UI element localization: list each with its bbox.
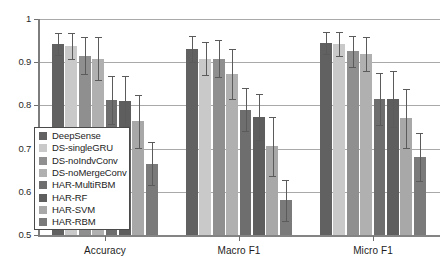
- error-bar: [339, 32, 340, 55]
- legend-swatch: [39, 218, 47, 226]
- legend-item: DS-noIndvConv: [39, 155, 118, 167]
- legend-swatch: [39, 169, 47, 177]
- error-bar-cap: [81, 37, 88, 38]
- error-bar-cap: [148, 185, 155, 186]
- legend-swatch: [39, 181, 47, 189]
- y-tick-label: 0.6: [2, 187, 31, 197]
- error-bar: [366, 37, 367, 72]
- error-bar: [112, 76, 113, 124]
- error-bar-cap: [256, 94, 263, 95]
- error-bar-cap: [416, 133, 423, 134]
- legend-label: DS-noMergeConv: [52, 168, 127, 178]
- error-bar: [246, 88, 247, 131]
- gridline: [38, 19, 440, 20]
- error-bar: [393, 71, 394, 127]
- error-bar-cap: [229, 49, 236, 50]
- error-bar: [98, 37, 99, 80]
- error-bar-cap: [135, 148, 142, 149]
- x-group-label: Macro F1: [189, 245, 289, 256]
- legend-label: DS-singleGRU: [52, 143, 113, 153]
- error-bar-cap: [55, 33, 62, 34]
- bar: [213, 59, 225, 235]
- error-bar-cap: [336, 32, 343, 33]
- y-tick-mark: [34, 62, 38, 63]
- legend-label: HAR-RF: [52, 193, 87, 203]
- bar: [333, 44, 345, 235]
- error-bar: [353, 36, 354, 67]
- error-bar-cap: [403, 89, 410, 90]
- error-bar-cap: [376, 73, 383, 74]
- error-bar-cap: [282, 221, 289, 222]
- y-tick-label: 0.8: [2, 100, 31, 110]
- error-bar-cap: [95, 80, 102, 81]
- error-bar-cap: [349, 67, 356, 68]
- bar: [320, 43, 332, 235]
- error-bar-cap: [376, 125, 383, 126]
- error-bar-cap: [269, 176, 276, 177]
- bar: [347, 51, 359, 235]
- legend-swatch: [39, 194, 47, 202]
- error-bar-cap: [336, 56, 343, 57]
- error-bar-cap: [256, 140, 263, 141]
- error-bar-cap: [323, 54, 330, 55]
- error-bar: [420, 133, 421, 181]
- error-bar: [58, 33, 59, 55]
- error-bar-cap: [242, 131, 249, 132]
- legend-label: DS-noIndvConv: [52, 156, 118, 166]
- bar: [360, 54, 372, 235]
- error-bar-cap: [189, 62, 196, 63]
- x-group-label: Micro F1: [323, 245, 423, 256]
- y-tick-mark: [34, 105, 38, 106]
- legend-item: HAR-SVM: [39, 204, 95, 216]
- error-bar: [152, 142, 153, 185]
- error-bar-cap: [215, 40, 222, 41]
- error-bar: [380, 73, 381, 125]
- legend-item: HAR-RBM: [39, 216, 96, 228]
- error-bar-cap: [189, 36, 196, 37]
- error-bar-cap: [68, 33, 75, 34]
- bar: [199, 59, 211, 235]
- error-bar: [406, 89, 407, 148]
- error-bar: [125, 76, 126, 126]
- error-bar-cap: [363, 37, 370, 38]
- error-bar: [85, 37, 86, 74]
- error-bar-cap: [403, 148, 410, 149]
- legend-item: DeepSense: [39, 130, 101, 142]
- error-bar-cap: [229, 99, 236, 100]
- error-bar-cap: [202, 42, 209, 43]
- x-tick-mark: [105, 236, 106, 241]
- error-bar: [206, 42, 207, 75]
- legend-label: HAR-RBM: [52, 217, 96, 227]
- x-tick-mark: [373, 236, 374, 241]
- error-bar: [286, 180, 287, 221]
- error-bar: [273, 117, 274, 176]
- y-tick-label: 0.7: [2, 144, 31, 154]
- error-bar-cap: [349, 36, 356, 37]
- legend-swatch: [39, 144, 47, 152]
- error-bar-cap: [323, 32, 330, 33]
- y-tick-mark: [34, 235, 38, 236]
- error-bar-cap: [122, 76, 129, 77]
- y-tick-label: 0.9: [2, 57, 31, 67]
- error-bar-cap: [108, 76, 115, 77]
- legend-swatch: [39, 157, 47, 165]
- legend-swatch: [39, 206, 47, 214]
- error-bar: [219, 40, 220, 77]
- error-bar-cap: [390, 71, 397, 72]
- error-bar-cap: [282, 180, 289, 181]
- error-bar-cap: [68, 59, 75, 60]
- y-tick-label: 1: [2, 14, 31, 24]
- error-bar-cap: [363, 71, 370, 72]
- legend-swatch: [39, 132, 47, 140]
- legend-item: DS-singleGRU: [39, 142, 113, 154]
- error-bar-cap: [55, 55, 62, 56]
- legend-item: HAR-RF: [39, 192, 87, 204]
- error-bar-cap: [416, 181, 423, 182]
- x-tick-mark: [239, 236, 240, 241]
- error-bar: [326, 32, 327, 54]
- bar: [186, 49, 198, 235]
- legend-label: HAR-SVM: [52, 205, 95, 215]
- y-tick-mark: [34, 19, 38, 20]
- error-bar: [72, 33, 73, 59]
- legend-item: HAR-MultiRBM: [39, 179, 115, 191]
